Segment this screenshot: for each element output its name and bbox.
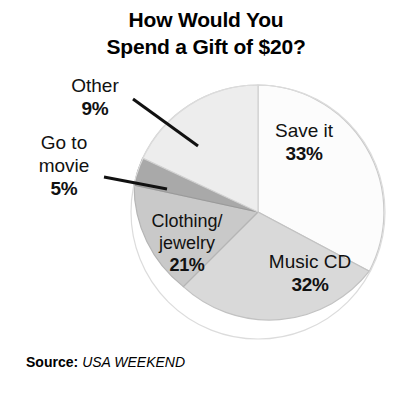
pie-label-clothing-jewelry-value: 21%	[128, 254, 246, 276]
source-note: Source:USA WEEKEND	[26, 353, 185, 371]
pie-label-clothing-jewelry-line-2: jewelry	[128, 232, 246, 254]
pie-chart-figure: How Would You Spend a Gift of $20? Save …	[0, 0, 412, 395]
pie-label-music-cd-value: 32%	[245, 273, 375, 296]
pie-label-save-it-value: 33%	[249, 142, 359, 165]
pie-label-go-to-movie-value: 5%	[14, 177, 114, 200]
pie-label-go-to-movie-line-1: Go to	[14, 131, 114, 154]
source-value: USA WEEKEND	[82, 354, 185, 370]
pie-label-music-cd: Music CD 32%	[245, 250, 375, 296]
pie-label-save-it-name: Save it	[249, 119, 359, 142]
pie-label-other: Other 9%	[40, 74, 150, 120]
pie-label-clothing-jewelry-line-1: Clothing/	[128, 210, 246, 232]
pie-label-go-to-movie-line-2: movie	[14, 154, 114, 177]
pie-label-clothing-jewelry: Clothing/ jewelry 21%	[128, 210, 246, 276]
pie-label-other-name: Other	[40, 74, 150, 97]
pie-label-other-value: 9%	[40, 97, 150, 120]
pie-label-music-cd-name: Music CD	[245, 250, 375, 273]
pie-label-go-to-movie: Go to movie 5%	[14, 131, 114, 200]
pie-label-save-it: Save it 33%	[249, 119, 359, 165]
source-label: Source:	[26, 354, 78, 370]
